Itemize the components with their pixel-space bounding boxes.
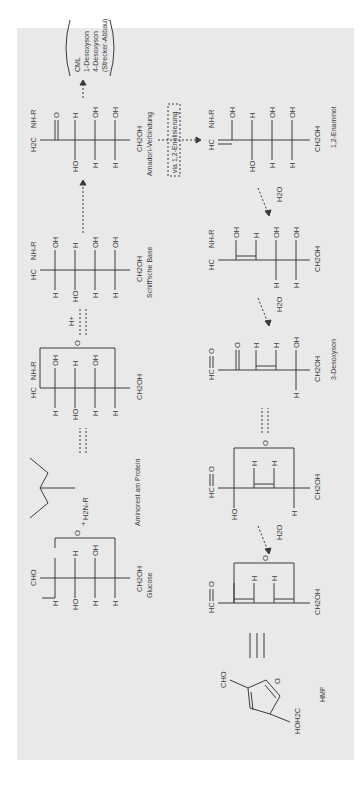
svg-text:HO: HO <box>71 291 80 302</box>
svg-text:H: H <box>71 361 80 366</box>
svg-text:H: H <box>292 393 301 398</box>
svg-text:H: H <box>250 461 259 466</box>
h-plus-arrow: H+ <box>67 308 86 335</box>
svg-text:OH: OH <box>91 355 100 366</box>
svg-text:NH-R: NH-R <box>29 109 38 128</box>
svg-text:H: H <box>91 293 100 298</box>
svg-text:H: H <box>268 163 277 168</box>
svg-text:O: O <box>261 440 270 446</box>
plus-sign: + <box>79 521 88 526</box>
svg-text:H: H <box>91 411 100 416</box>
svg-text:OH: OH <box>272 227 281 238</box>
svg-text:OH: OH <box>232 227 241 238</box>
svg-text:OH: OH <box>51 355 60 366</box>
glycosylamine-structure: HC NH-R HOH HOH HOH H O CH2OH <box>29 340 144 420</box>
svg-text:O: O <box>273 678 282 684</box>
desoxyson-structure: HC O O H H HOH CH2OH 3-Desoxyson <box>207 337 338 398</box>
svg-text:CH2OH: CH2OH <box>135 374 144 400</box>
svg-text:(Strecker-Abbau): (Strecker-Abbau) <box>101 19 109 72</box>
water-loss-arrow-2: H2O <box>258 296 284 326</box>
hmf-structure: CHO HOH2C O HMF <box>219 671 326 734</box>
svg-text:O: O <box>207 581 216 587</box>
svg-text:H2O: H2O <box>275 296 284 312</box>
svg-text:NH-R: NH-R <box>29 241 38 260</box>
svg-text:H: H <box>270 461 279 466</box>
svg-text:O: O <box>73 340 82 346</box>
svg-text:H: H <box>252 343 261 348</box>
svg-text:NH-R: NH-R <box>207 229 216 248</box>
svg-text:H: H <box>51 601 60 606</box>
svg-text:HC: HC <box>207 369 216 380</box>
svg-text:HO: HO <box>71 599 80 610</box>
equilibrium-arrow-1 <box>80 428 86 453</box>
svg-text:H2O: H2O <box>275 524 284 540</box>
svg-text:H: H <box>71 551 80 556</box>
glucose-label: Glucose <box>146 572 153 598</box>
svg-text:H: H <box>290 511 299 516</box>
amadori-label: Amadori-Verbindung <box>146 112 154 176</box>
svg-text:OH: OH <box>292 227 301 238</box>
svg-text:H: H <box>250 576 259 581</box>
svg-text:OH: OH <box>91 237 100 248</box>
amino-label: Aminorest am Protein <box>134 459 141 526</box>
schiff-base-label: Schiff'sche Base <box>146 246 153 298</box>
arrow-amadori-products <box>80 80 86 98</box>
svg-text:CH2OH: CH2OH <box>313 126 322 152</box>
svg-text:O: O <box>52 112 61 118</box>
svg-text:HC: HC <box>29 269 38 280</box>
svg-text:CH2OH: CH2OH <box>135 566 144 592</box>
svg-text:O: O <box>207 348 216 354</box>
svg-text:OH: OH <box>292 337 301 348</box>
svg-text:via 1,2-Enolisierung: via 1,2-Enolisierung <box>171 111 179 173</box>
svg-text:H2N-R: H2N-R <box>81 496 90 520</box>
svg-text:CML: CML <box>74 57 81 72</box>
svg-text:H: H <box>272 283 281 288</box>
svg-text:CHO: CHO <box>29 569 38 586</box>
svg-text:HC: HC <box>207 487 216 498</box>
cyclic-intermediate-1: HC O HO H H H O CH2OH <box>207 440 322 520</box>
svg-text:OH: OH <box>111 107 120 118</box>
cyclic-intermediate-2: HC O H H O CH2OH <box>207 555 322 615</box>
water-loss-arrow-1: H2O <box>258 186 284 216</box>
svg-text:H2O: H2O <box>275 186 284 202</box>
svg-text:CH2OH: CH2OH <box>313 474 322 500</box>
svg-text:H: H <box>272 343 281 348</box>
schiff-base-structure: HC NH-R HOH HOH HOH HOH CH2OH Schiff'sch… <box>29 237 153 302</box>
svg-text:HC: HC <box>207 602 216 613</box>
svg-text:H: H <box>71 243 80 248</box>
svg-text:O: O <box>233 342 242 348</box>
products-list: CML 1-Desoxyson 4-Desoxyson (Strecker-Ab… <box>66 19 114 76</box>
svg-text:OH: OH <box>51 237 60 248</box>
svg-text:CHO: CHO <box>219 671 228 688</box>
arrow-schiff-amadori <box>80 180 86 233</box>
amino-protein: H2N-R Aminorest am Protein <box>30 458 141 526</box>
maillard-scheme: CHO H HOH HOH H O CH2OH Glucose + H2N-R … <box>0 0 364 788</box>
svg-text:H: H <box>248 113 257 118</box>
enaminol-structure: HC NH-R OH HOH HOH HOH CH2OH 1,2-Enamino… <box>207 106 337 172</box>
svg-text:CH2OH: CH2OH <box>135 126 144 152</box>
svg-text:HO: HO <box>230 509 239 520</box>
svg-text:OH: OH <box>288 107 297 118</box>
svg-text:HOH2C: HOH2C <box>293 707 302 734</box>
glucose-structure: CHO H HOH HOH H O CH2OH Glucose <box>29 530 153 610</box>
svg-text:H: H <box>292 283 301 288</box>
svg-text:OH: OH <box>228 107 237 118</box>
hmf-label: HMF <box>319 687 326 702</box>
water-loss-arrow-3: H2O <box>258 524 284 554</box>
enolization-arrow: via 1,2-Enolisierung <box>158 104 201 176</box>
svg-text:H: H <box>71 113 80 118</box>
svg-text:NH-R: NH-R <box>207 109 216 128</box>
svg-text:OH: OH <box>268 107 277 118</box>
svg-text:OH: OH <box>91 107 100 118</box>
svg-text:H: H <box>111 163 120 168</box>
svg-text:4-Desoxyson: 4-Desoxyson <box>92 31 100 72</box>
svg-text:H+: H+ <box>67 316 76 326</box>
svg-text:1-Desoxyson: 1-Desoxyson <box>83 31 91 72</box>
svg-text:O: O <box>207 466 216 472</box>
enaminol-label: 1,2-Enaminol <box>330 106 337 148</box>
svg-text:H: H <box>270 576 279 581</box>
svg-text:H: H <box>288 163 297 168</box>
svg-text:H: H <box>51 293 60 298</box>
svg-text:H: H <box>252 233 261 238</box>
svg-text:HC: HC <box>207 259 216 270</box>
